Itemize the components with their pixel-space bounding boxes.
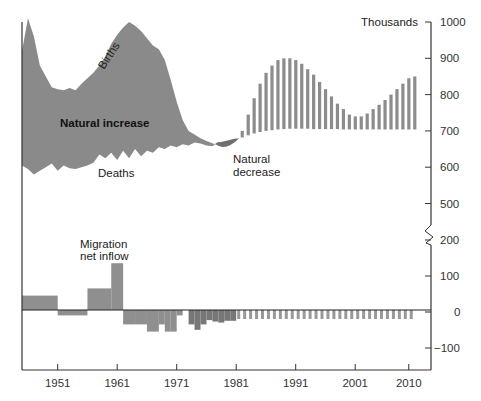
projected-migration-bar — [326, 310, 329, 319]
axis-break-icon — [425, 225, 433, 245]
projected-migration-bar — [309, 310, 312, 319]
migration-bar — [111, 263, 123, 310]
births-deaths-area — [22, 18, 239, 174]
projected-migration-bar — [261, 310, 264, 319]
projected-migration-bar — [380, 310, 383, 319]
migration-bar — [201, 310, 207, 324]
projected-migration-bar — [297, 310, 300, 319]
projected-bar — [336, 104, 339, 129]
migration-bar — [189, 310, 195, 324]
x-tick-label: 1951 — [45, 377, 71, 389]
projected-bar — [413, 76, 416, 129]
projected-bar — [401, 84, 404, 130]
projected-bar — [342, 109, 345, 129]
projected-bar — [372, 109, 375, 129]
migration-bar — [147, 310, 159, 332]
migration-bar — [58, 310, 88, 315]
migration-bar — [218, 310, 224, 323]
migration-bar — [171, 310, 177, 332]
projected-migration-bar — [338, 310, 341, 319]
population-chart: 10009008007006005002001000−100 195119611… — [0, 0, 481, 401]
y-tick-label: 0 — [454, 306, 460, 318]
projected-migration-bar — [332, 310, 335, 319]
migration-label-1: Migration — [80, 238, 127, 250]
projected-bar — [383, 100, 386, 129]
migration-label-2: net inflow — [80, 250, 129, 262]
projected-migration-bar — [321, 310, 324, 319]
projected-migration-bar — [386, 310, 389, 319]
projected-bar — [259, 84, 262, 132]
projected-migration-bar — [255, 310, 258, 319]
projected-bar — [330, 96, 333, 129]
projected-migration-bar — [249, 310, 252, 319]
projected-bar — [288, 58, 291, 128]
projected-migration-bar — [291, 310, 294, 319]
x-tick-label: 1991 — [283, 377, 309, 389]
migration-bar — [159, 310, 165, 324]
y-tick-label: 600 — [440, 161, 459, 173]
projected-bar — [282, 58, 285, 129]
projected-bar — [354, 116, 357, 129]
projected-migration-bar — [273, 310, 276, 319]
projected-bar — [241, 131, 244, 138]
x-tick-label: 1971 — [164, 377, 190, 389]
projected-migration-bar — [303, 310, 306, 319]
migration-bar — [135, 310, 147, 324]
projected-bar — [395, 89, 398, 129]
migration-bar — [206, 310, 212, 320]
projected-migration-bar — [368, 310, 371, 319]
projected-migration-bar — [362, 310, 365, 319]
projected-migration-bar — [410, 310, 413, 319]
y-tick-label: 1000 — [440, 16, 466, 28]
migration-bar — [230, 310, 236, 321]
projected-migration-bar — [279, 310, 282, 319]
projected-migration-bar — [243, 310, 246, 319]
projected-migration-bar — [374, 310, 377, 319]
migration-bar — [22, 296, 58, 310]
y-tick-label: −100 — [434, 342, 460, 354]
migration-bars — [22, 263, 413, 331]
projected-migration-bar — [392, 310, 395, 319]
projected-bar — [389, 95, 392, 130]
natural-increase-label: Natural increase — [60, 117, 150, 129]
y-axis — [425, 22, 433, 370]
projected-migration-bar — [356, 310, 359, 319]
units-label: Thousands — [361, 16, 418, 28]
projected-migration-bar — [315, 310, 318, 319]
x-tick-label: 2001 — [342, 377, 368, 389]
projected-bar — [306, 69, 309, 129]
projected-migration-bar — [267, 310, 270, 319]
y-tick-label: 500 — [440, 198, 459, 210]
projected-bar — [294, 60, 297, 129]
projected-migration-bar — [350, 310, 353, 319]
migration-bar — [212, 310, 218, 322]
projected-bar — [276, 60, 279, 129]
y-tick-label: 900 — [440, 52, 459, 64]
projected-bar — [312, 75, 315, 129]
x-tick-label: 1961 — [104, 377, 130, 389]
projected-bar — [264, 73, 267, 131]
projected-migration-bar — [285, 310, 288, 319]
x-tick-label: 1981 — [223, 377, 249, 389]
migration-bar — [224, 310, 230, 321]
migration-bar — [177, 310, 183, 315]
projected-bar — [407, 78, 410, 129]
projected-bar — [318, 82, 321, 129]
natural-decrease-label-1: Natural — [233, 153, 270, 165]
projected-migration-bar — [398, 310, 401, 319]
projected-migration-bar — [404, 310, 407, 319]
projected-bar — [247, 115, 250, 136]
projected-bar — [360, 116, 363, 129]
y-tick-label: 800 — [440, 89, 459, 101]
migration-bar — [87, 288, 111, 310]
migration-bar — [123, 310, 135, 324]
y-tick-label: 200 — [440, 234, 459, 246]
y-tick-label: 700 — [440, 125, 459, 137]
projected-bar — [270, 66, 273, 131]
migration-bar — [195, 310, 201, 330]
projected-bar — [348, 115, 351, 130]
projected-migration-bar — [344, 310, 347, 319]
projected-bar — [253, 98, 256, 133]
x-axis-ticks: 1951196119711981199120012010 — [45, 364, 422, 389]
projected-births-bars — [241, 58, 417, 137]
